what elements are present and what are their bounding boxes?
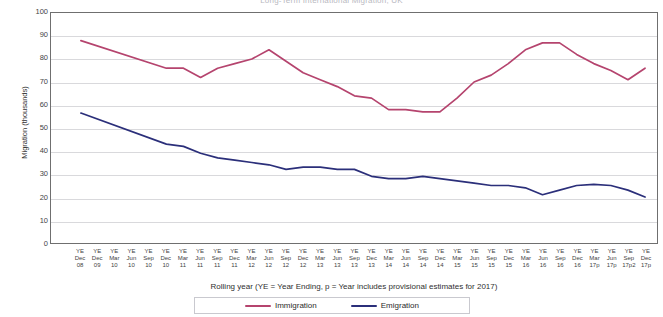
y-tick-label: 70 (14, 78, 48, 86)
y-tick-label: 10 (14, 217, 48, 225)
legend-item-emigration[interactable]: Emigration (351, 301, 419, 310)
legend-item-immigration[interactable]: Immigration (245, 301, 317, 310)
y-tick-label: 90 (14, 31, 48, 39)
plot-area (50, 12, 658, 244)
y-tick-label: 60 (14, 101, 48, 109)
y-tick-label: 50 (14, 124, 48, 132)
series-lines (51, 13, 657, 243)
x-axis-title: Rolling year (YE = Year Ending, p = Year… (50, 282, 658, 291)
y-tick-label: 0 (14, 240, 48, 248)
chart-legend: ImmigrationEmigration (194, 297, 470, 314)
legend-label: Immigration (275, 301, 317, 310)
y-axis-ticks: 0102030405060708090100 (10, 0, 48, 317)
x-tick-label: YEDec17p (631, 248, 661, 270)
y-tick-label: 20 (14, 194, 48, 202)
legend-label: Emigration (381, 301, 419, 310)
legend-swatch-immigration (245, 305, 271, 307)
x-axis-ticks: YEDec08YEDec09YEMar10YEJun10YESep10YEDec… (50, 248, 658, 278)
migration-line-chart: Long-Term International Migration, UK Mi… (0, 0, 663, 317)
series-line-immigration (81, 41, 645, 112)
chart-title: Long-Term International Migration, UK (0, 0, 663, 6)
y-tick-label: 80 (14, 54, 48, 62)
y-tick-label: 100 (14, 8, 48, 16)
y-tick-label: 30 (14, 170, 48, 178)
legend-swatch-emigration (351, 305, 377, 307)
y-tick-label: 40 (14, 147, 48, 155)
series-line-emigration (81, 113, 645, 197)
